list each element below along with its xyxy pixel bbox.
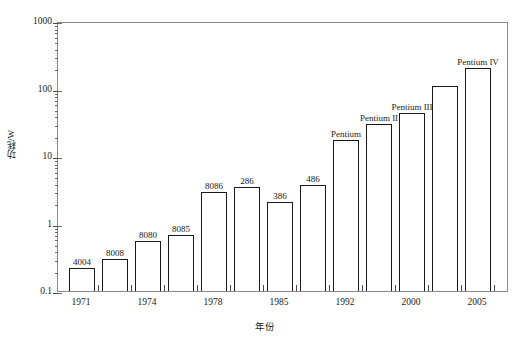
bar-value-label: 8008 (95, 249, 135, 258)
x-axis-tick-label: 1992 (325, 297, 365, 307)
y-axis-minor-tick (55, 94, 58, 95)
y-axis-minor-tick (55, 97, 58, 98)
bar-value-label: 286 (227, 177, 267, 186)
bar (465, 68, 491, 291)
x-axis-tick-label: 1978 (193, 297, 233, 307)
x-axis-tick-label: 1971 (61, 297, 101, 307)
y-axis-minor-tick (55, 111, 58, 112)
y-axis-tick-label: 1 (10, 220, 52, 230)
y-axis-minor-tick (55, 58, 58, 59)
y-axis-minor-tick (55, 173, 58, 174)
y-axis-minor-tick (55, 273, 58, 274)
y-axis-minor-tick (55, 261, 58, 262)
y-axis-tick-label: 10 (10, 152, 52, 162)
plot-area: 40048008808080858086286386486PentiumPent… (57, 22, 508, 292)
bar (366, 124, 392, 291)
x-axis-tick (461, 285, 462, 291)
y-axis-minor-tick (55, 101, 58, 102)
y-axis-inner-tick (58, 91, 62, 92)
y-axis-minor-tick (55, 193, 58, 194)
x-axis-tick (362, 285, 363, 291)
y-axis-minor-tick (55, 117, 58, 118)
y-axis-minor-tick (55, 232, 58, 233)
x-axis-tick (131, 285, 132, 291)
y-axis-minor-tick (55, 33, 58, 34)
y-axis-tick-label: 100 (10, 85, 52, 95)
bar-value-label: 486 (293, 175, 333, 184)
y-axis-minor-tick (55, 240, 58, 241)
x-axis-tick (98, 285, 99, 291)
x-axis-tick (428, 285, 429, 291)
y-axis-minor-tick (55, 70, 58, 71)
x-axis-title: 年份 (0, 322, 529, 333)
x-axis-tick-label: 2000 (391, 297, 431, 307)
x-axis-tick (230, 285, 231, 291)
bar (234, 187, 260, 291)
y-axis-minor-tick (55, 236, 58, 237)
bar (300, 185, 326, 291)
y-axis-minor-tick (55, 126, 58, 127)
y-axis-tick-label: 0.1 (10, 287, 52, 297)
bar (135, 241, 161, 291)
bar (168, 235, 194, 291)
y-axis-minor-tick (55, 26, 58, 27)
y-axis-inner-tick (58, 158, 62, 159)
y-axis-minor-tick (55, 30, 58, 31)
bar (267, 202, 293, 291)
bar-value-label: 386 (260, 192, 300, 201)
x-axis-tick (197, 285, 198, 291)
bar (399, 113, 425, 291)
x-axis-tick (296, 285, 297, 291)
x-axis-tick (164, 285, 165, 291)
x-axis-tick-label: 2005 (457, 297, 497, 307)
bar-value-label: 8085 (161, 225, 201, 234)
y-axis-minor-tick (55, 252, 58, 253)
bar (102, 259, 128, 291)
y-axis-minor-tick (55, 205, 58, 206)
bar (69, 268, 95, 291)
y-axis-minor-tick (55, 185, 58, 186)
bar-value-label: Pentium IV (446, 58, 510, 67)
x-axis-tick-label: 1985 (259, 297, 299, 307)
y-axis-minor-tick (55, 161, 58, 162)
bar (432, 86, 458, 291)
y-axis-inner-tick (58, 293, 62, 294)
y-axis-minor-tick (55, 168, 58, 169)
y-axis-minor-tick (55, 105, 58, 106)
y-axis-minor-tick (55, 50, 58, 51)
bar-value-label: 4004 (62, 258, 102, 267)
x-axis-tick (494, 285, 495, 291)
y-axis-minor-tick (55, 138, 58, 139)
x-axis-tick (395, 285, 396, 291)
y-axis-minor-tick (55, 178, 58, 179)
y-axis-minor-tick (55, 229, 58, 230)
x-axis-tick (263, 285, 264, 291)
figure-chart-cpu-power: 功耗/W 40048008808080858086286386486Pentiu… (0, 0, 529, 349)
x-axis-tick-label: 1974 (127, 297, 167, 307)
y-axis-inner-tick (58, 23, 62, 24)
y-axis-minor-tick (55, 246, 58, 247)
y-axis-inner-tick (58, 226, 62, 227)
bar (333, 140, 359, 291)
y-axis-minor-tick (55, 165, 58, 166)
y-axis-minor-tick (55, 38, 58, 39)
bar (201, 192, 227, 291)
y-axis-tick-label: 1000 (10, 17, 52, 27)
x-axis-tick (329, 285, 330, 291)
y-axis-minor-tick (55, 43, 58, 44)
